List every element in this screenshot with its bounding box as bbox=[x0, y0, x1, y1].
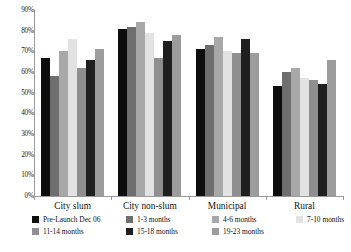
legend-row: 11-14 months15-18 months19-23 months bbox=[32, 227, 344, 236]
bar bbox=[68, 39, 77, 196]
bar bbox=[59, 51, 68, 196]
bar-group bbox=[34, 10, 111, 196]
legend-label: 4-6 months bbox=[223, 215, 256, 224]
legend-swatch-icon bbox=[212, 216, 219, 223]
bar bbox=[118, 29, 127, 196]
legend-swatch-icon bbox=[212, 228, 219, 235]
legend-label: Pre-Launch Dec 06 bbox=[43, 215, 100, 224]
bar bbox=[327, 60, 336, 196]
legend-label: 1-3 months bbox=[137, 215, 170, 224]
bar bbox=[41, 58, 50, 196]
legend-item[interactable]: 1-3 months bbox=[126, 215, 212, 224]
bar bbox=[300, 78, 309, 196]
bar bbox=[291, 68, 300, 196]
bar-group bbox=[266, 10, 343, 196]
x-axis-label: City slum bbox=[34, 198, 111, 214]
legend-item[interactable]: Pre-Launch Dec 06 bbox=[32, 215, 126, 224]
bar bbox=[241, 39, 250, 196]
legend-item[interactable]: 19-23 months bbox=[212, 227, 296, 236]
bar bbox=[282, 72, 291, 196]
legend-label: 15-18 months bbox=[137, 227, 178, 236]
bar bbox=[273, 86, 282, 196]
legend-row: Pre-Launch Dec 061-3 months4-6 months7-1… bbox=[32, 215, 344, 224]
bar bbox=[163, 41, 172, 196]
x-axis-labels: City slumCity non-slumMunicipalRural bbox=[34, 198, 343, 214]
bar bbox=[50, 76, 59, 196]
legend-item[interactable]: 15-18 months bbox=[126, 227, 212, 236]
legend-item[interactable]: 4-6 months bbox=[212, 215, 296, 224]
bar bbox=[250, 53, 259, 196]
chart-legend: Pre-Launch Dec 061-3 months4-6 months7-1… bbox=[32, 215, 344, 239]
bar bbox=[318, 84, 327, 196]
legend-item[interactable]: 11-14 months bbox=[32, 227, 126, 236]
bar bbox=[232, 53, 241, 196]
bar bbox=[145, 33, 154, 196]
bar bbox=[309, 80, 318, 196]
plot-area bbox=[34, 10, 343, 196]
legend-swatch-icon bbox=[126, 228, 133, 235]
legend-item[interactable]: 7-10 months bbox=[296, 215, 344, 224]
legend-swatch-icon bbox=[32, 216, 39, 223]
legend-swatch-icon bbox=[32, 228, 39, 235]
bar-groups bbox=[34, 10, 343, 196]
bar bbox=[223, 51, 232, 196]
legend-label: 19-23 months bbox=[223, 227, 264, 236]
bar-group bbox=[189, 10, 266, 196]
legend-swatch-icon bbox=[296, 216, 303, 223]
bar bbox=[86, 60, 95, 196]
bar bbox=[172, 35, 181, 196]
bar bbox=[95, 49, 104, 196]
bar bbox=[214, 37, 223, 196]
legend-label: 11-14 months bbox=[43, 227, 84, 236]
bar bbox=[196, 49, 205, 196]
bar bbox=[205, 45, 214, 196]
x-axis-label: Rural bbox=[266, 198, 343, 214]
bar bbox=[154, 58, 163, 196]
x-axis-label: City non-slum bbox=[111, 198, 188, 214]
bar bbox=[136, 22, 145, 196]
x-axis-label: Municipal bbox=[189, 198, 266, 214]
bar-group bbox=[111, 10, 188, 196]
bar-chart: 90%80%70%60%50%40%30%20%10%0% City slumC… bbox=[0, 0, 351, 252]
x-axis-tick-mark bbox=[343, 196, 344, 200]
legend-label: 7-10 months bbox=[307, 215, 344, 224]
legend-swatch-icon bbox=[126, 216, 133, 223]
bar bbox=[127, 27, 136, 196]
bar bbox=[77, 68, 86, 196]
